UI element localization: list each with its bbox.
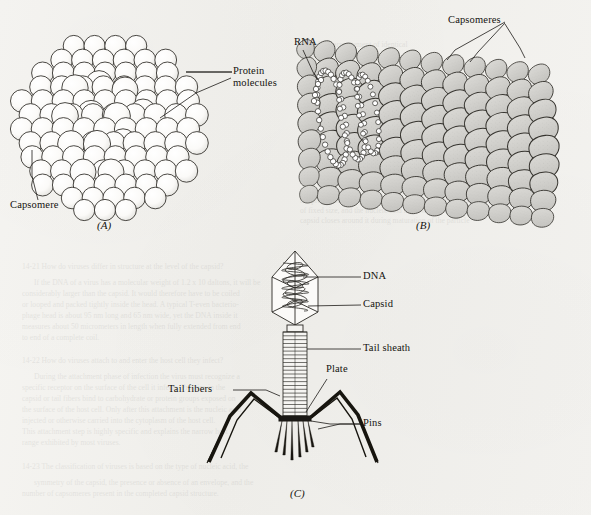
tail-fiber <box>310 398 366 457</box>
label-capsomeres: Capsomeres <box>448 14 501 25</box>
rna-bead <box>337 82 342 87</box>
panel-letter-c: (C) <box>290 487 305 499</box>
phage-pin <box>291 421 293 460</box>
leader-tail-fibers <box>233 390 280 396</box>
panel-letter-a: (A) <box>97 219 111 231</box>
capsomere <box>530 206 556 230</box>
capsomere <box>401 193 426 216</box>
capsomere <box>508 204 534 228</box>
capsomere <box>359 188 384 210</box>
leader-capsomeres-3 <box>505 24 525 58</box>
capsomere <box>487 202 512 225</box>
virus-structure-figure: Protein molecules Capsomere RNA Capsomer… <box>0 0 591 515</box>
panel-letter-b: (B) <box>416 219 430 231</box>
capsomere <box>299 185 318 204</box>
rna-bead <box>355 86 360 91</box>
phage-pin <box>303 421 308 452</box>
rna-bead <box>337 97 342 102</box>
leader-capsomeres-2 <box>470 23 505 62</box>
phage-pin <box>283 421 287 455</box>
rna-bead <box>337 106 342 111</box>
rna-bead <box>376 143 381 148</box>
rna-bead <box>318 126 323 131</box>
phage-pins <box>275 421 314 460</box>
capsomere <box>316 184 340 206</box>
label-tail-sheath: Tail sheath <box>363 342 410 353</box>
capsomere-sphere <box>145 187 167 209</box>
capsomere <box>337 186 361 208</box>
panel-b-helical-virus <box>294 38 560 230</box>
tail-fiber <box>209 393 280 462</box>
rna-bead <box>374 110 379 115</box>
rna-bead <box>368 84 373 89</box>
panel-a-capsomere-spheres <box>10 35 208 220</box>
rna-bead <box>313 86 318 91</box>
phage-pin <box>298 421 301 457</box>
rna-bead <box>345 140 350 145</box>
capsomere-sphere <box>115 199 136 220</box>
rna-bead <box>366 145 371 150</box>
capsomere-sphere <box>74 199 95 220</box>
rna-bead <box>361 131 366 136</box>
rna-bead <box>312 92 317 97</box>
capsomere <box>299 167 319 187</box>
rna-bead <box>343 152 348 157</box>
rna-bead <box>373 101 378 106</box>
label-capsid: Capsid <box>363 298 393 309</box>
panel-a-icosahedral-virus <box>10 35 208 220</box>
capsomere-sphere <box>175 160 197 182</box>
rna-bead <box>376 129 381 134</box>
panel-c-bacteriophage <box>207 251 378 463</box>
rna-bead <box>331 76 336 81</box>
capsomere-sphere <box>94 199 115 220</box>
capsomere <box>444 197 469 220</box>
rna-bead <box>317 117 322 122</box>
tail-fiber <box>207 416 230 463</box>
rna-bead <box>347 147 352 152</box>
phage-collar <box>287 325 303 332</box>
rna-bead <box>337 89 342 94</box>
rna-bead <box>376 137 381 142</box>
rna-bead <box>322 142 327 147</box>
label-capsomere: Capsomere <box>10 199 59 210</box>
rna-bead <box>355 94 360 99</box>
capsomere <box>380 191 405 214</box>
phage-pin <box>275 421 282 452</box>
rna-bead <box>349 75 354 80</box>
rna-bead <box>370 92 375 97</box>
phage-pin <box>308 421 314 447</box>
rna-bead <box>355 103 360 108</box>
rna-bead <box>365 78 370 83</box>
rna-bead <box>311 98 316 103</box>
label-tail-fibers: Tail fibers <box>168 383 212 394</box>
rna-bead <box>355 80 360 85</box>
tail-fiber <box>221 399 281 458</box>
capsomere-sphere <box>186 132 209 155</box>
label-dna: DNA <box>363 270 386 281</box>
rna-bead <box>328 154 333 159</box>
figure-drawing <box>0 0 591 515</box>
label-protein-molecules-line2: molecules <box>233 77 277 88</box>
rna-bead <box>363 139 368 144</box>
rna-bead <box>339 115 344 120</box>
rna-bead <box>376 120 381 125</box>
rna-bead <box>315 109 320 114</box>
label-rna: RNA <box>294 36 317 47</box>
rna-bead <box>320 134 325 139</box>
label-pins: Pins <box>363 417 382 428</box>
panel-b-capsomere-blobs <box>294 38 560 230</box>
rna-bead <box>358 122 363 127</box>
rna-bead <box>315 81 320 86</box>
phage-base-plate <box>279 416 311 421</box>
capsomere <box>423 195 448 218</box>
label-protein-molecules-line1: Protein <box>233 65 264 76</box>
rna-bead <box>340 124 345 129</box>
rna-bead <box>357 113 362 118</box>
label-plate: Plate <box>326 363 348 374</box>
capsomere-sphere <box>32 174 54 196</box>
rna-bead <box>325 149 330 154</box>
rna-bead <box>342 133 347 138</box>
rna-bead <box>350 152 355 157</box>
capsomere <box>466 199 491 222</box>
